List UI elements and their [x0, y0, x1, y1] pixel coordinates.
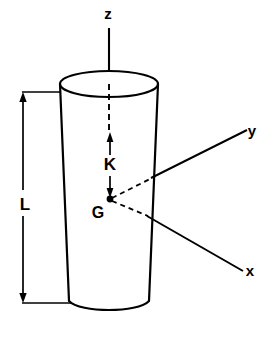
axis-label-x: x: [246, 262, 255, 279]
dimension-label-K: K: [104, 155, 117, 174]
axis-y-line-visible: [151, 130, 247, 178]
dimension-label-L: L: [20, 195, 30, 214]
diagram-canvas: z y x L K G: [0, 0, 273, 340]
dimension-L-arrowhead-top: [19, 92, 26, 102]
figure-container: z y x L K G: [0, 0, 273, 340]
dimension-L-arrowhead-bottom: [19, 293, 26, 303]
axis-x-line-visible: [147, 216, 243, 271]
axis-label-z: z: [104, 5, 112, 22]
axis-label-y: y: [248, 122, 257, 139]
centre-of-gravity-marker: [107, 196, 114, 203]
point-label-G: G: [92, 204, 104, 221]
